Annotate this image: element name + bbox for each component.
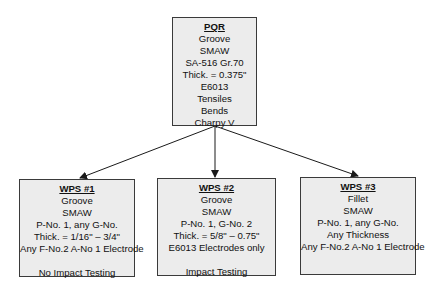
wps1-line: SMAW: [20, 207, 134, 219]
pqr-line: Bends: [173, 105, 256, 117]
spacer: [20, 255, 134, 267]
arrow-to-wps3: [215, 126, 358, 176]
arrow-to-wps1: [80, 126, 215, 178]
wps2-box: WPS #2 Groove SMAW P-No. 1, G-No. 2 Thic…: [157, 178, 276, 276]
wps3-line: P-No. 1, any G-No.: [301, 217, 415, 229]
pqr-title: PQR: [173, 21, 256, 33]
wps1-line: Any F-No.2 A-No 1 Electrode: [20, 243, 134, 255]
pqr-line: SA-516 Gr.70: [173, 57, 256, 69]
wps1-title: WPS #1: [20, 183, 134, 195]
pqr-line: Groove: [173, 33, 256, 45]
wps3-line: Any Thickness: [301, 229, 415, 241]
wps2-note: Impact Testing: [158, 266, 275, 278]
wps3-line: Fillet: [301, 193, 415, 205]
pqr-line: SMAW: [173, 45, 256, 57]
wps1-line: P-No. 1, any G-No.: [20, 219, 134, 231]
wps1-line: Thick. = 1/16" – 3/4": [20, 231, 134, 243]
pqr-line: Thick. = 0.375": [173, 69, 256, 81]
wps1-line: Groove: [20, 195, 134, 207]
wps2-line: E6013 Electrodes only: [158, 242, 275, 254]
pqr-box: PQR Groove SMAW SA-516 Gr.70 Thick. = 0.…: [172, 17, 257, 126]
pqr-line: E6013: [173, 81, 256, 93]
wps2-line: Groove: [158, 194, 275, 206]
wps3-title: WPS #3: [301, 181, 415, 193]
wps2-title: WPS #2: [158, 182, 275, 194]
wps1-note: No Impact Testing: [20, 267, 134, 279]
wps2-line: SMAW: [158, 206, 275, 218]
spacer: [158, 254, 275, 266]
wps3-box: WPS #3 Fillet SMAW P-No. 1, any G-No. An…: [300, 177, 416, 275]
wps2-line: Thick. = 5/8" – 0.75": [158, 230, 275, 242]
wps1-box: WPS #1 Groove SMAW P-No. 1, any G-No. Th…: [19, 179, 135, 277]
wps3-line: Any F-No.2 A-No 1 Electrode: [301, 241, 415, 253]
pqr-line: Charpy V: [173, 117, 256, 129]
pqr-line: Tensiles: [173, 93, 256, 105]
wps3-line: SMAW: [301, 205, 415, 217]
wps2-line: P-No. 1, G-No. 2: [158, 218, 275, 230]
